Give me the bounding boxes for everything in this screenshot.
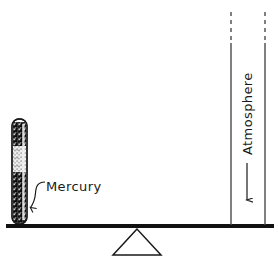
mercury-leader-line <box>31 182 46 208</box>
mercury-tube-highlight <box>22 124 24 220</box>
atmosphere-label: Atmosphere <box>240 72 255 155</box>
mercury-fill-group <box>13 122 26 224</box>
mercury-label: Mercury <box>46 179 102 194</box>
fulcrum-triangle <box>113 229 161 255</box>
mercury-barometer-diagram: Mercury Atmosphere <box>0 0 278 261</box>
mercury-tube-group <box>12 119 27 224</box>
diagram-canvas: Mercury Atmosphere <box>0 0 278 261</box>
